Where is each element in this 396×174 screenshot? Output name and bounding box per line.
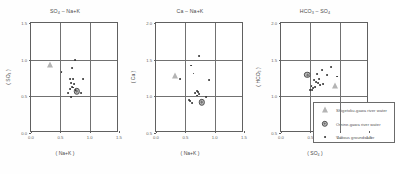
gridline-vertical [60,23,61,131]
data-point-dot [198,93,200,95]
x-tick [90,131,91,133]
data-point-dot [321,69,323,71]
data-point-dot [75,90,77,92]
data-point-dot [196,95,198,97]
data-point-dot [191,102,193,104]
data-point-dot [318,79,320,81]
y-tick [29,96,31,97]
y-tick [154,60,156,61]
y-tick-label: 1.0 [21,57,27,62]
data-point-dot [74,59,76,61]
x-tick-label: 0.5 [182,135,188,140]
data-point-dot [326,74,328,76]
y-tick [279,60,281,61]
data-point-triangle [332,82,338,88]
plot-area: Shigetoku-gawa river water Omine-gawa ri… [280,22,368,132]
x-tick [310,131,311,133]
y-axis-title: ( Ca ) [130,71,136,84]
x-tick-label: 0.0 [278,135,284,140]
legend-item: Shigetoku-gawa river water [314,104,396,118]
data-point-dot [311,89,313,91]
gridline-vertical [90,23,91,131]
plot-area: 0.00.51.01.50.00.51.01.5 [30,22,118,132]
y-tick [154,23,156,24]
data-point-triangle [172,72,178,78]
y-axis-title: ( HCO₃ ) [255,67,261,86]
data-point-dot [198,55,200,57]
data-point-dot [82,79,84,81]
legend-marker-glyph [322,120,328,126]
x-tick [156,131,157,133]
data-point-dot [208,79,210,81]
data-point-dot [179,79,181,81]
y-tick-label: 0.5 [271,131,277,136]
legend: Shigetoku-gawa river water Omine-gawa ri… [313,102,395,143]
x-axis-title: ( Na+K ) [2,150,128,156]
legend-item-label: Shigetoku-gawa river water [336,108,387,113]
x-tick [340,131,341,133]
x-axis-title: ( SO₄ ) [252,150,378,156]
x-tick [215,131,216,133]
data-point-dot [80,92,82,94]
data-point-dot [70,96,72,98]
panel-hco3-so4: HCO3 – SO4 Shigetoku-gawa river water Om… [252,0,378,174]
x-tick [281,131,282,133]
data-point-dot [61,71,63,73]
y-tick-label: 1.0 [146,94,152,99]
x-tick-label: 0.5 [307,135,313,140]
x-tick [369,131,370,133]
y-tick-label: 1.5 [21,21,27,26]
x-tick-label: 0.5 [57,135,63,140]
y-tick-label: 0.5 [146,131,152,136]
data-point-dot [188,99,190,101]
legend-item: Various groundwater [314,130,396,144]
data-point-dot [316,73,318,75]
gridline-horizontal [281,96,367,97]
y-tick [154,96,156,97]
data-point-dot [72,87,74,89]
x-tick-label: 1.5 [241,135,247,140]
y-tick [154,133,156,134]
gridline-vertical [310,23,311,131]
gridline-vertical [215,23,216,131]
x-tick-label: 1.5 [116,135,122,140]
panel-title: HCO3 – SO4 [252,8,378,14]
panel-ca-nak: Ca – Na+K 0.00.51.01.50.51.01.52.0 ( Na+… [127,0,253,174]
panel-title: SO4 – Na+K [2,8,128,14]
plot-area: 0.00.51.01.50.51.01.52.0 [155,22,243,132]
x-tick [185,131,186,133]
legend-item: Omine-gawa river water [314,117,396,131]
y-tick-label: 0.0 [21,131,27,136]
gridline-vertical [185,23,186,131]
data-point-dot [331,66,333,68]
x-tick [119,131,120,133]
data-point-dot [206,96,208,98]
data-point-dot [69,88,71,90]
gridline-horizontal [31,96,117,97]
panel-title: Ca – Na+K [127,8,253,14]
y-tick [29,23,31,24]
y-tick-label: 0.5 [21,94,27,99]
data-point-dot [314,86,316,88]
x-tick [60,131,61,133]
panel-so4-nak: SO4 – Na+K 0.00.51.01.50.00.51.01.5 ( Na… [2,0,128,174]
y-tick [29,133,31,134]
data-point-triangle [47,61,53,67]
y-tick [279,23,281,24]
y-tick [279,96,281,97]
data-point-dot [71,68,73,70]
x-tick-label: 1.0 [337,135,343,140]
y-tick-label: 2.0 [271,21,277,26]
gridline-vertical [340,23,341,131]
y-tick [29,60,31,61]
data-point-circle [199,99,205,105]
data-point-dot [322,83,324,85]
data-point-dot [319,84,321,86]
data-point-dot [72,78,74,80]
data-point-dot [190,65,192,67]
y-tick-label: 1.0 [271,94,277,99]
y-axis-title: ( SO₄ ) [5,69,11,84]
x-tick-label: 0.0 [153,135,159,140]
x-tick-label: 1.0 [212,135,218,140]
y-tick-label: 1.5 [146,57,152,62]
